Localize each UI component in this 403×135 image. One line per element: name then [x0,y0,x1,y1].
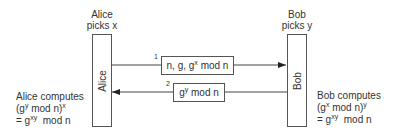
alice-name: Alice [78,9,126,20]
message-2-text-post: mod n [188,87,219,98]
alice-computes-line3: = gxy mod n [16,115,84,127]
bob-computes-line2: (gx mod n)y [317,102,381,114]
message-1-text-pre: n, g, g [167,60,195,71]
bob-header: Bob picks y [273,9,321,31]
message-2-number: 2 [166,80,170,87]
bob-name: Bob [273,9,321,20]
alice-header: Alice picks x [78,9,126,31]
alice-box-label: Alice [97,70,108,92]
bob-picks: picks y [273,20,321,31]
message-1-text-post: mod n [198,60,229,71]
alice-picks: picks x [78,20,126,31]
message-1-number: 1 [154,53,158,60]
bob-box-label: Bob [292,72,303,90]
alice-computes-line2: (gy mod n)x [16,103,84,115]
message-2-box: gy mod n [173,83,225,102]
bob-box: Bob [287,34,307,127]
alice-computes: Alice computes (gy mod n)x = gxy mod n [16,91,84,127]
bob-computes-line3: = gxy mod n [317,114,381,126]
alice-box: Alice [92,34,112,127]
bob-computes: Bob computes (gx mod n)y = gxy mod n [317,90,381,126]
message-1-box: n, g, gx mod n [161,56,234,75]
